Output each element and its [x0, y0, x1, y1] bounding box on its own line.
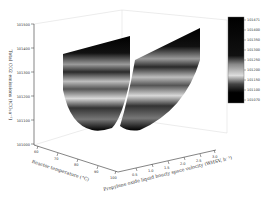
z-tick: 101300 — [17, 71, 30, 75]
x-tick: 80 — [74, 163, 78, 167]
legend-label: 101350 — [247, 38, 260, 42]
z-tick: 101200 — [17, 95, 30, 99]
legend-label: 101250 — [247, 58, 260, 62]
z-tick: 101500 — [17, 23, 30, 27]
y-tick: 1.0 — [148, 169, 154, 173]
y-tick: 2.0 — [180, 162, 186, 166]
legend-label: 101400 — [247, 28, 260, 32]
z-tick: 101000 — [17, 143, 30, 147]
x-tick: 100 — [110, 176, 117, 180]
y-axis: 0.5 1.0 1.5 2.0 2.5 3.0 Propylene oxide … — [103, 150, 233, 193]
legend-label: 101300 — [247, 48, 260, 52]
z-axis-title: Total CO2 emissions (tCO₂a⁻¹) — [8, 50, 13, 121]
z-tick: 101100 — [17, 119, 30, 123]
surface — [63, 28, 200, 131]
legend: 101471 101400 101350 101300 101250 10120… — [228, 17, 260, 103]
y-tick: 0.5 — [132, 173, 138, 177]
legend-label: 101150 — [247, 78, 260, 82]
legend-label: 101070 — [247, 98, 260, 102]
legend-label: 101100 — [247, 88, 260, 92]
x-tick: 90 — [94, 170, 98, 174]
legend-label: 101471 — [247, 18, 260, 22]
y-tick: 1.5 — [164, 166, 170, 170]
legend-label: 101200 — [247, 68, 260, 72]
x-tick: 60 — [34, 150, 38, 154]
x-axis: 60 70 80 90 100 Reactor temperature (°C) — [31, 145, 118, 182]
z-axis: 101500 101400 101300 101200 101100 10100… — [8, 23, 34, 147]
surface-chart: 101500 101400 101300 101200 101100 10100… — [0, 0, 273, 210]
x-tick: 70 — [54, 157, 58, 161]
z-tick: 101400 — [17, 47, 30, 51]
x-axis-title: Reactor temperature (°C) — [31, 159, 90, 182]
